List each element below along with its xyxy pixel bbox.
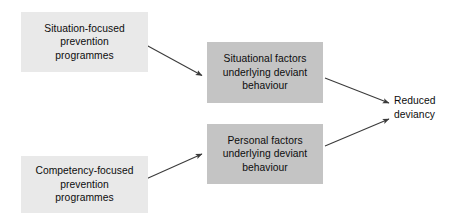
edge-situation-to-situational bbox=[147, 46, 202, 76]
node-label: Situational factors underlying deviant b… bbox=[223, 52, 307, 92]
flow-diagram: Situation-focused prevention programmes … bbox=[0, 0, 458, 220]
edge-personal-to-reduced bbox=[325, 119, 389, 146]
node-situational-factors-underlying-deviant-behaviour: Situational factors underlying deviant b… bbox=[207, 42, 323, 103]
node-personal-factors-underlying-deviant-behaviour: Personal factors underlying deviant beha… bbox=[207, 124, 323, 184]
node-label: Personal factors underlying deviant beha… bbox=[223, 134, 307, 174]
node-situation-focused-prevention-programmes: Situation-focused prevention programmes bbox=[21, 12, 148, 72]
edge-situational-to-reduced bbox=[325, 78, 389, 103]
node-reduced-deviancy: Reduced deviancy bbox=[394, 94, 458, 121]
node-label: Competency-focused prevention programmes bbox=[35, 164, 133, 204]
node-competency-focused-prevention-programmes: Competency-focused prevention programmes bbox=[21, 156, 148, 213]
node-label: Situation-focused prevention programmes bbox=[44, 22, 124, 62]
edge-competency-to-personal bbox=[146, 154, 202, 179]
